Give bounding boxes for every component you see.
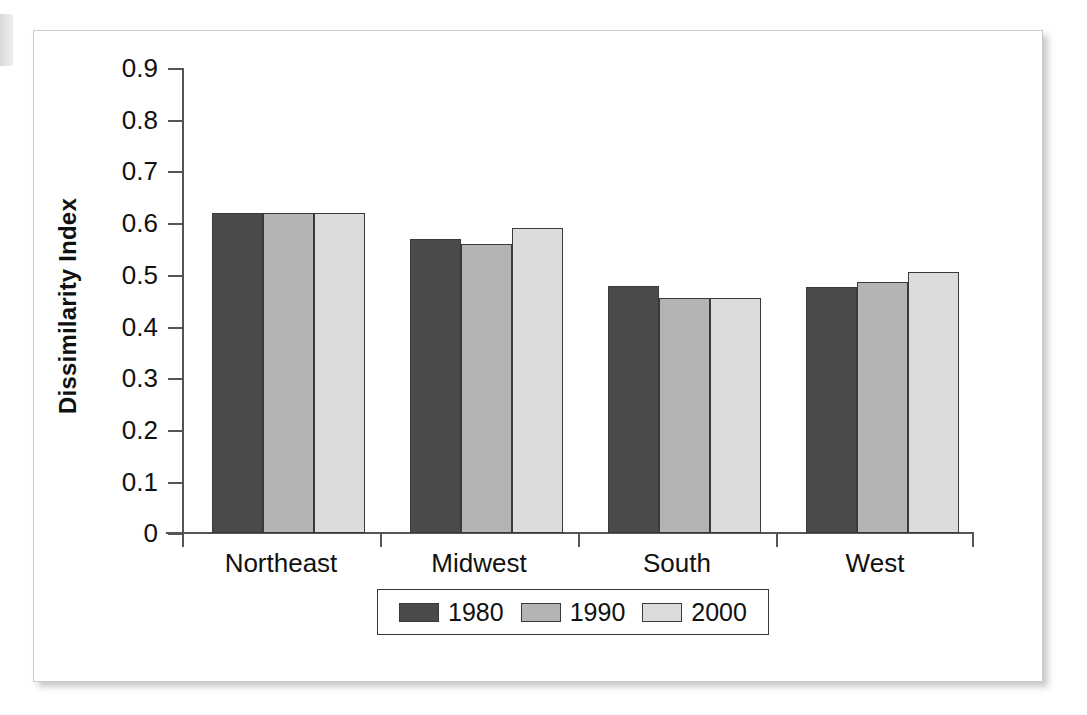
category-label-northeast: Northeast (191, 549, 371, 578)
legend-swatch-icon-1980 (399, 603, 439, 622)
bar-midwest-1990[interactable] (461, 244, 512, 534)
legend-item-1980[interactable]: 1980 (399, 600, 504, 625)
y-tick-mark (168, 171, 182, 173)
y-tick-mark (168, 533, 182, 535)
y-tick-mark (168, 120, 182, 122)
legend-item-2000[interactable]: 2000 (642, 600, 747, 625)
category-label-south: South (587, 549, 767, 578)
bar-west-1990[interactable] (857, 282, 908, 533)
y-tick-label: 0.6 (102, 210, 158, 236)
y-tick-label: 0.3 (102, 365, 158, 391)
category-label-midwest: Midwest (389, 549, 569, 578)
y-tick-label: 0 (102, 520, 158, 546)
y-tick-label: 0.4 (102, 314, 158, 340)
chart-legend: 1980 1990 2000 (377, 589, 769, 635)
y-tick-label: 0.9 (102, 55, 158, 81)
y-tick-label: 0.1 (102, 469, 158, 495)
y-tick-mark (168, 275, 182, 277)
x-tick-mark (578, 532, 580, 547)
y-tick-label: 0.8 (102, 107, 158, 133)
bar-south-1980[interactable] (608, 286, 659, 533)
bar-northeast-2000[interactable] (314, 213, 365, 534)
category-label-west: West (785, 549, 965, 578)
legend-label-1990: 1990 (570, 600, 626, 625)
y-tick-label: 0.7 (102, 158, 158, 184)
y-tick-mark (168, 68, 182, 70)
y-axis-line (182, 68, 184, 534)
x-tick-mark (182, 532, 184, 547)
y-tick-mark (168, 378, 182, 380)
legend-label-1980: 1980 (448, 600, 504, 625)
x-tick-mark (972, 532, 974, 547)
y-axis-title: Dissimilarity Index (54, 176, 82, 436)
x-tick-mark (380, 532, 382, 547)
y-tick-mark (168, 482, 182, 484)
legend-label-2000: 2000 (691, 600, 747, 625)
x-tick-mark (776, 532, 778, 547)
bar-northeast-1990[interactable] (263, 213, 314, 534)
bar-south-1990[interactable] (659, 298, 710, 534)
bar-northeast-1980[interactable] (212, 213, 263, 534)
y-tick-mark (168, 430, 182, 432)
bar-midwest-1980[interactable] (410, 239, 461, 534)
bar-west-2000[interactable] (908, 272, 959, 533)
legend-item-1990[interactable]: 1990 (521, 600, 626, 625)
bar-chart-plot: Dissimilarity Index 0.9 0.8 0.7 0.6 0.5 … (0, 0, 1087, 715)
legend-swatch-icon-1990 (521, 603, 561, 622)
y-tick-mark (168, 223, 182, 225)
y-tick-mark (168, 327, 182, 329)
legend-swatch-icon-2000 (642, 603, 682, 622)
bar-south-2000[interactable] (710, 298, 761, 534)
figure-page: Dissimilarity Index 0.9 0.8 0.7 0.6 0.5 … (0, 0, 1087, 715)
bar-west-1980[interactable] (806, 287, 857, 534)
bar-midwest-2000[interactable] (512, 228, 563, 533)
y-tick-label: 0.2 (102, 417, 158, 443)
y-tick-label: 0.5 (102, 262, 158, 288)
